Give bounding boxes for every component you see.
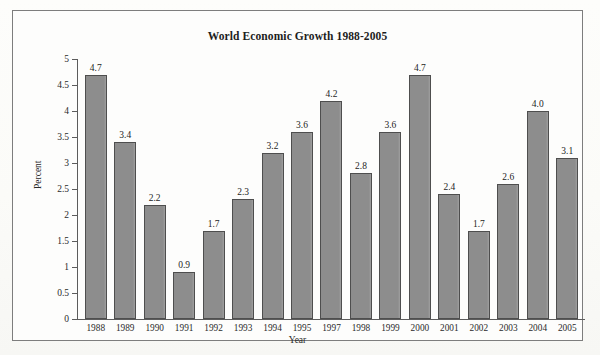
bar[interactable] (350, 173, 372, 319)
bar-group[interactable]: 1.7 (199, 59, 228, 319)
chart-frame: World Economic Growth 1988-2005 Percent … (12, 10, 583, 341)
y-axis-tick-label: 3.5 (29, 132, 69, 142)
x-axis-tick-label: 2001 (435, 323, 464, 333)
bar-group[interactable]: 4.2 (317, 59, 346, 319)
bar[interactable] (262, 153, 284, 319)
y-axis-tick-label: 0 (29, 314, 69, 324)
plot-area: 00.511.522.533.544.55 4.73.42.20.91.72.3… (77, 59, 585, 319)
x-axis-tick-label: 2005 (553, 323, 582, 333)
bar-group[interactable]: 3.1 (553, 59, 582, 319)
bar-value-label: 4.7 (414, 63, 426, 73)
bar-value-label: 3.6 (384, 120, 396, 130)
x-axis-tick-label: 2004 (523, 323, 552, 333)
y-axis-tick (72, 59, 77, 60)
bar-value-label: 1.7 (208, 219, 220, 229)
bar-group[interactable]: 3.4 (110, 59, 139, 319)
bar-value-label: 3.2 (267, 141, 279, 151)
bar-value-label: 3.6 (296, 120, 308, 130)
x-axis-tick-label: 1995 (287, 323, 316, 333)
bar-group[interactable]: 4.7 (405, 59, 434, 319)
bar-value-label: 3.1 (561, 146, 573, 156)
y-axis-tick-label: 4.5 (29, 80, 69, 90)
x-axis-tick-label: 1993 (228, 323, 257, 333)
chart-title: World Economic Growth 1988-2005 (13, 30, 582, 42)
x-axis-tick-label: 2003 (494, 323, 523, 333)
bar-group[interactable]: 2.6 (494, 59, 523, 319)
bar-value-label: 3.4 (119, 130, 131, 140)
x-axis-line (77, 319, 585, 320)
y-axis-tick (72, 85, 77, 86)
y-axis-tick-label: 4 (29, 106, 69, 116)
x-axis-tick-label: 1999 (376, 323, 405, 333)
x-axis-title: Year (13, 335, 582, 345)
bar-value-label: 1.7 (473, 219, 485, 229)
bar-value-label: 4.0 (532, 99, 544, 109)
bar-value-label: 4.2 (326, 89, 338, 99)
x-axis-tick-labels: 1988198919901991199219931994199519971998… (78, 323, 585, 333)
x-axis-tick-label: 1992 (199, 323, 228, 333)
bar-group[interactable]: 2.2 (140, 59, 169, 319)
bar[interactable] (291, 132, 313, 319)
x-axis-tick-label: 1989 (110, 323, 139, 333)
y-axis-tick-label: 2 (29, 210, 69, 220)
bar[interactable] (85, 75, 107, 319)
bar[interactable] (379, 132, 401, 319)
y-axis-tick (72, 241, 77, 242)
x-axis-tick-label: 1988 (81, 323, 110, 333)
y-axis-tick (72, 267, 77, 268)
bar[interactable] (114, 142, 136, 319)
bar-value-label: 0.9 (178, 260, 190, 270)
bar[interactable] (497, 184, 519, 319)
x-axis-tick-label: 2002 (464, 323, 493, 333)
bar[interactable] (144, 205, 166, 319)
bar-group[interactable]: 1.7 (464, 59, 493, 319)
bar-group[interactable]: 0.9 (169, 59, 198, 319)
bar-value-label: 2.8 (355, 161, 367, 171)
bar[interactable] (203, 231, 225, 319)
y-axis-tick-label: 0.5 (29, 288, 69, 298)
x-axis-tick-label: 1998 (346, 323, 375, 333)
x-axis-tick-label: 1990 (140, 323, 169, 333)
bar-group[interactable]: 4.0 (523, 59, 552, 319)
bar-value-label: 2.4 (443, 182, 455, 192)
bar-group[interactable]: 2.4 (435, 59, 464, 319)
bar[interactable] (556, 158, 578, 319)
y-axis-tick-label: 3 (29, 158, 69, 168)
y-axis-tick-label: 2.5 (29, 184, 69, 194)
bar-value-label: 4.7 (90, 63, 102, 73)
bar-group[interactable]: 2.8 (346, 59, 375, 319)
bar-series: 4.73.42.20.91.72.33.23.64.22.83.64.72.41… (78, 59, 585, 319)
y-axis-tick (72, 137, 77, 138)
bar-group[interactable]: 2.3 (228, 59, 257, 319)
bar-group[interactable]: 4.7 (81, 59, 110, 319)
bar[interactable] (527, 111, 549, 319)
bar-group[interactable]: 3.2 (258, 59, 287, 319)
bar-value-label: 2.2 (149, 193, 161, 203)
bar-group[interactable]: 3.6 (376, 59, 405, 319)
y-axis-tick (72, 319, 77, 320)
chart-screenshot: World Economic Growth 1988-2005 Percent … (0, 0, 600, 355)
x-axis-tick-label: 2000 (405, 323, 434, 333)
y-axis-tick (72, 111, 77, 112)
y-axis-tick-label: 1 (29, 262, 69, 272)
bar[interactable] (438, 194, 460, 319)
y-axis-tick-label: 5 (29, 54, 69, 64)
y-axis-tick (72, 215, 77, 216)
y-axis-tick (72, 293, 77, 294)
bar[interactable] (409, 75, 431, 319)
bar-value-label: 2.6 (502, 172, 514, 182)
x-axis-tick-label: 1994 (258, 323, 287, 333)
x-axis-tick-label: 1991 (169, 323, 198, 333)
bar[interactable] (468, 231, 490, 319)
x-axis-tick-label: 1997 (317, 323, 346, 333)
bar[interactable] (232, 199, 254, 319)
bar[interactable] (320, 101, 342, 319)
y-axis-tick (72, 189, 77, 190)
y-axis-tick-label: 1.5 (29, 236, 69, 246)
bar-value-label: 2.3 (237, 187, 249, 197)
bar[interactable] (173, 272, 195, 319)
y-axis-tick (72, 163, 77, 164)
bar-group[interactable]: 3.6 (287, 59, 316, 319)
